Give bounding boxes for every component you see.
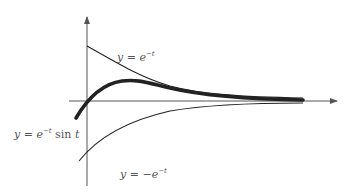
damped-sine-curve xyxy=(76,80,303,118)
lower-envelope-curve xyxy=(79,103,303,161)
figure: y = e−t y = −e−t y = e−t sin t xyxy=(0,0,354,192)
label-upper-envelope: y = e−t xyxy=(116,50,155,64)
label-lower-envelope: y = −e−t xyxy=(119,167,167,181)
label-damped-sine: y = e−t sin t xyxy=(13,127,80,141)
